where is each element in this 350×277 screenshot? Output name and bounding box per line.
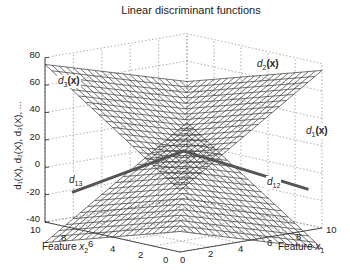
x2-tick-6: 6 (88, 238, 93, 249)
chart-area: Linear discriminant functions d₁(X), d₂(… (0, 0, 350, 277)
chart-title: Linear discriminant functions (0, 4, 350, 16)
d2-surface-label: d2(x) (257, 58, 279, 71)
z-axis-label: d₁(X), d₂(X), d₃(X), ... (12, 71, 23, 221)
z-tick-40: 40 (14, 103, 40, 114)
z-tick-neg20: -20 (14, 186, 40, 197)
d13-boundary-label: d13 (68, 174, 83, 187)
x1-tick-6: 6 (267, 237, 272, 248)
x1-tick-4: 4 (238, 243, 243, 254)
z-tick-neg40: -40 (14, 213, 40, 224)
z-tick-0: 0 (14, 158, 40, 169)
d3-surface-label: d3(x) (57, 75, 81, 88)
surface-meshes (45, 64, 322, 248)
d12-boundary-label: d12 (266, 176, 281, 189)
x2-tick-10: 10 (30, 224, 41, 235)
x2-axis-label: Feature x2 (42, 241, 88, 254)
x1-tick-0: 0 (180, 254, 185, 265)
x1-axis-label: Feature x1 (278, 241, 324, 254)
axes-box (45, 34, 322, 252)
x2-tick-2: 2 (138, 249, 143, 260)
x1-tick-10: 10 (326, 224, 337, 235)
z-tick-60: 60 (14, 76, 40, 87)
x1-tick-2: 2 (208, 248, 213, 259)
z-tick-20: 20 (14, 131, 40, 142)
d1-surface-label: d1(x) (305, 125, 329, 138)
z-tick-80: 80 (14, 49, 40, 60)
x2-tick-0: 0 (163, 254, 168, 265)
x2-tick-4: 4 (110, 243, 115, 254)
